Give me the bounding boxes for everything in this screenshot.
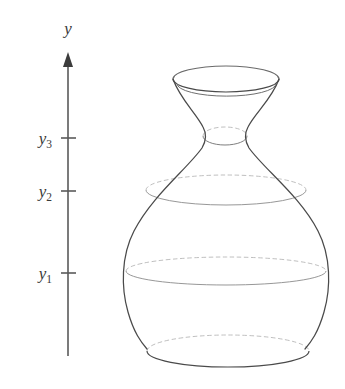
vase-base-back-arc [147, 335, 309, 351]
tick-label-y1-base: y [37, 264, 47, 283]
vase-cross-section-y1-front-arc [126, 271, 326, 285]
tick-label-y3: y3 [37, 129, 53, 150]
vase-rim-front-arc [173, 79, 279, 92]
vase-cross-section-y3-back-arc [203, 127, 247, 136]
tick-group-y2: y2 [37, 182, 76, 203]
y-axis-arrowhead [63, 52, 73, 67]
tick-label-y1: y1 [37, 264, 53, 285]
vase-base-front-arc [147, 351, 309, 367]
tick-group-y3: y3 [37, 129, 76, 150]
vase-diagram-svg: y y3 y2 y1 [0, 0, 345, 389]
vase-group [123, 66, 328, 367]
vase-cross-section-y1-back-arc [126, 257, 326, 271]
figure-container: y y3 y2 y1 [0, 0, 345, 389]
y-axis-label: y [62, 19, 72, 38]
vase-rim-back-arc [173, 66, 279, 79]
tick-label-y2: y2 [37, 182, 53, 203]
tick-label-y1-subscript: 1 [46, 273, 52, 285]
tick-label-y2-subscript: 2 [46, 191, 52, 203]
vase-right-profile [245, 79, 328, 349]
vase-cross-section-y2-front-arc [146, 190, 306, 205]
vase-cross-section-y3-front-arc [203, 136, 247, 145]
y-axis-group: y [62, 19, 73, 356]
tick-label-y3-base: y [37, 129, 47, 148]
y-axis-ticks: y3 y2 y1 [37, 129, 76, 285]
vase-rim-inner-arc [177, 84, 276, 96]
tick-label-y2-base: y [37, 182, 47, 201]
tick-group-y1: y1 [37, 264, 76, 285]
vase-left-profile [123, 79, 205, 349]
tick-label-y3-subscript: 3 [46, 138, 52, 150]
